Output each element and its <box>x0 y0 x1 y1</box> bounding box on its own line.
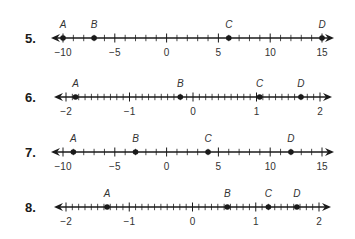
point-c-label: C <box>225 19 233 30</box>
tick-label: 0 <box>190 106 196 117</box>
point-a-label: A <box>103 188 111 199</box>
tick-label: 10 <box>265 47 277 58</box>
point-c-dot <box>226 35 232 41</box>
point-c-label: C <box>265 188 273 199</box>
number-line-problem: 8.−2−1012ABCD <box>25 188 331 227</box>
point-a-dot <box>71 149 77 155</box>
point-b-dot <box>91 35 97 41</box>
problem-number: 7. <box>25 145 36 160</box>
tick-label: −2 <box>60 106 72 117</box>
tick-label: 1 <box>254 106 260 117</box>
tick-label: 0 <box>164 161 170 172</box>
tick-label: 0 <box>190 216 196 227</box>
point-a-dot <box>104 204 110 210</box>
number-line-problem: 7.−10−5051015ABCD <box>25 133 334 172</box>
point-c-dot <box>266 204 272 210</box>
point-b-label: B <box>177 78 184 89</box>
problem-number: 6. <box>25 90 36 105</box>
tick-label: −5 <box>109 47 121 58</box>
tick-label: 15 <box>316 47 328 58</box>
point-d-label: D <box>293 188 300 199</box>
tick-label: 2 <box>317 106 323 117</box>
point-b-label: B <box>132 133 139 144</box>
number-line-problem: 6.−2−1012ABCD <box>25 78 332 117</box>
point-b-label: B <box>91 19 98 30</box>
number-line-problem: 5.−10−5051015ABCD <box>25 19 334 58</box>
tick-label: 5 <box>216 161 222 172</box>
point-c-label: C <box>256 78 264 89</box>
point-d-dot <box>298 94 304 100</box>
point-c-dot <box>205 149 211 155</box>
point-c-dot <box>257 94 263 100</box>
tick-label: −1 <box>124 106 136 117</box>
point-a-dot <box>60 35 66 41</box>
point-a-dot <box>73 94 79 100</box>
point-a-label: A <box>71 78 79 89</box>
tick-label: 1 <box>253 216 259 227</box>
tick-label: −2 <box>60 216 72 227</box>
point-d-dot <box>294 204 300 210</box>
point-a-label: A <box>59 19 67 30</box>
point-a-label: A <box>69 133 77 144</box>
point-d-dot <box>288 149 294 155</box>
point-b-label: B <box>224 188 231 199</box>
tick-label: 5 <box>216 47 222 58</box>
tick-label: −1 <box>124 216 136 227</box>
point-d-dot <box>319 35 325 41</box>
tick-label: 15 <box>316 161 328 172</box>
point-d-label: D <box>297 78 304 89</box>
tick-label: −10 <box>55 47 72 58</box>
problem-number: 8. <box>25 200 36 215</box>
point-d-label: D <box>318 19 325 30</box>
point-b-dot <box>178 94 184 100</box>
problem-number: 5. <box>25 31 36 46</box>
tick-label: 10 <box>265 161 277 172</box>
tick-label: −5 <box>109 161 121 172</box>
tick-label: 0 <box>164 47 170 58</box>
number-line-worksheet: 5.−10−5051015ABCD6.−2−1012ABCD7.−10−5051… <box>0 0 355 239</box>
tick-label: 2 <box>316 216 322 227</box>
tick-label: −10 <box>55 161 72 172</box>
point-c-label: C <box>204 133 212 144</box>
point-d-label: D <box>287 133 294 144</box>
point-b-dot <box>224 204 230 210</box>
point-b-dot <box>133 149 139 155</box>
